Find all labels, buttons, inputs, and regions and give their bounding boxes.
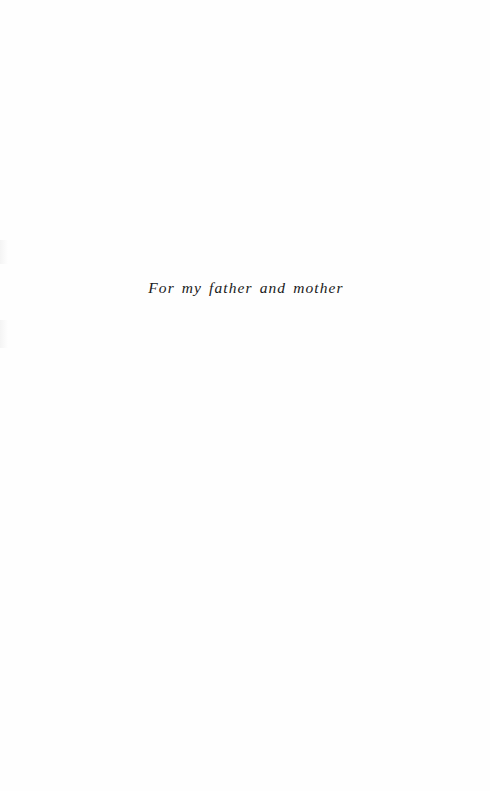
book-page: For my father and mother bbox=[0, 0, 490, 791]
dedication-text: For my father and mother bbox=[0, 278, 490, 298]
scan-edge-artifact bbox=[0, 320, 8, 348]
scan-edge-artifact bbox=[0, 240, 8, 264]
